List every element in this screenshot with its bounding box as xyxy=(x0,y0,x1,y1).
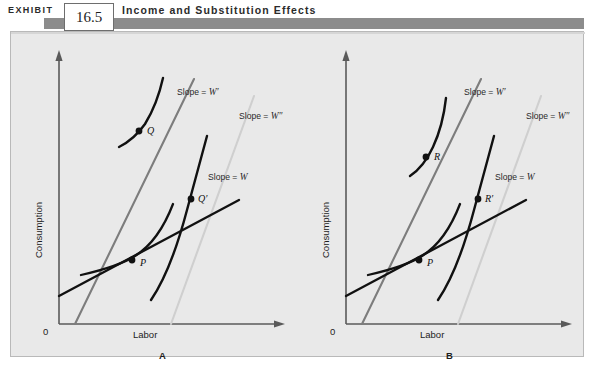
budget-line-w-double-prime xyxy=(458,96,541,324)
panel-b-slope-label-w-prime: Slope = W′ xyxy=(464,87,506,97)
panel-a-slope-label-w-prime: Slope = W′ xyxy=(177,87,219,97)
panel-b-slope-symbol-w-double-prime: W″ xyxy=(558,111,570,121)
panel-a-slope-symbol-w-double-prime: W″ xyxy=(271,111,283,121)
panel-a-slope-symbol-w: W xyxy=(240,172,248,182)
point-q-prime xyxy=(188,196,195,203)
panel-a-y-axis-label: Consumption xyxy=(33,202,44,258)
panel-b: Consumption 0 Labor B Slope = W′ Slope =… xyxy=(298,32,585,358)
panel-a-slope-text-w-prime: Slope = xyxy=(177,87,209,97)
point-r xyxy=(423,154,430,161)
indifference-curve-r-prime xyxy=(438,136,494,300)
exhibit-kicker: EXHIBIT xyxy=(8,5,53,15)
exhibit-figure: EXHIBIT 16.5 Income and Substitution Eff… xyxy=(0,0,595,388)
point-p xyxy=(416,257,423,264)
panel-a-slope-text-w: Slope = xyxy=(208,172,240,182)
panel-a-plot xyxy=(11,32,298,358)
exhibit-title: Income and Substitution Effects xyxy=(122,4,317,16)
budget-line-w-double-prime xyxy=(171,96,254,324)
exhibit-number-box: 16.5 xyxy=(64,3,114,31)
point-q xyxy=(136,128,143,135)
axes xyxy=(55,50,285,328)
budget-line-w xyxy=(59,200,239,296)
panel-b-origin-label: 0 xyxy=(330,326,335,337)
panel-b-slope-symbol-w: W xyxy=(527,172,535,182)
panel-b-y-axis-label: Consumption xyxy=(320,202,331,258)
budget-line-w-prime xyxy=(75,79,194,324)
panel-b-slope-text-w-prime: Slope = xyxy=(464,87,496,97)
indifference-curve-q-prime xyxy=(151,136,207,300)
budget-line-w-prime xyxy=(362,79,481,324)
axes xyxy=(342,50,572,328)
panel-b-x-axis-label: Labor xyxy=(420,329,444,340)
panel-b-plot xyxy=(298,32,585,358)
header-rule xyxy=(44,18,584,29)
panel-a-point-label-p: P xyxy=(140,257,146,268)
panel-b-slope-label-w-double-prime: Slope = W″ xyxy=(526,111,570,121)
point-p xyxy=(129,257,136,264)
panel-b-slope-label-w: Slope = W xyxy=(495,172,535,182)
panel-b-letter: B xyxy=(446,350,453,361)
panel-b-slope-text-w: Slope = xyxy=(495,172,527,182)
panel-b-slope-text-w-double-prime: Slope = xyxy=(526,111,558,121)
indifference-curve-q xyxy=(119,78,163,147)
panel-a-point-label-q: Q xyxy=(147,125,154,136)
panel-a-slope-label-w-double-prime: Slope = W″ xyxy=(239,111,283,121)
point-r-prime xyxy=(475,196,482,203)
exhibit-number: 16.5 xyxy=(76,10,102,25)
budget-line-w xyxy=(346,200,526,296)
panel-b-point-label-r-prime: R′ xyxy=(485,193,493,204)
panel-a-slope-label-w: Slope = W xyxy=(208,172,248,182)
figure-frame: Consumption 0 Labor A Slope = W′ Slope =… xyxy=(10,31,584,357)
panel-a-point-label-q-prime: Q′ xyxy=(198,193,207,204)
panel-a-slope-symbol-w-prime: W′ xyxy=(209,87,219,97)
panel-b-point-label-p: P xyxy=(427,257,433,268)
panel-a: Consumption 0 Labor A Slope = W′ Slope =… xyxy=(11,32,298,358)
panel-a-letter: A xyxy=(159,350,166,361)
panel-a-slope-text-w-double-prime: Slope = xyxy=(239,111,271,121)
panel-b-slope-symbol-w-prime: W′ xyxy=(496,87,506,97)
panel-a-origin-label: 0 xyxy=(43,326,48,337)
panel-a-x-axis-label: Labor xyxy=(133,329,157,340)
panel-b-point-label-r: R xyxy=(434,151,440,162)
